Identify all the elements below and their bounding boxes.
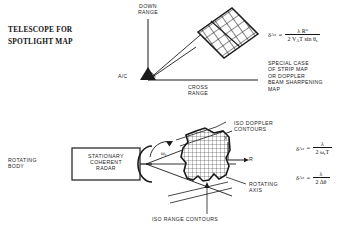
axis-x-label: X [224, 135, 228, 141]
figure-title-block: TELESCOPE FOR SPOTLIGHT MAP [8, 24, 88, 47]
formula2-fraction: λ 2 Δθ [313, 171, 330, 185]
formula-numerator: λ Ro [294, 27, 311, 34]
aircraft-label: A/C [118, 73, 128, 79]
iso-doppler-contours-label: ISO DOPPLER CONTOURS [234, 120, 302, 132]
formula-equals: = [276, 32, 284, 38]
down-range-label: DOWN RANGE [122, 3, 174, 15]
figure-canvas: TELESCOPE FOR SPOTLIGHT MAP DOWN RANGE C… [0, 0, 352, 237]
iso-range-contours-label: ISO RANGE CONTOURS [152, 216, 218, 222]
special-case-note: SPECIAL CASE OF STRIP MAP OR DOPPLER BEA… [268, 60, 352, 92]
axis-r-label: R [249, 156, 253, 162]
formula-denominator-sub2: s [316, 38, 318, 43]
isar-resolution-formula-1: δ A z = λ 2 ωrT [296, 141, 332, 156]
rotating-axis-label: ROTATING AXIS [249, 181, 293, 193]
formula-numerator-sup: o [306, 27, 308, 32]
formula1-denominator: 2 ωrT [313, 147, 333, 156]
formula-denominator: 2 VAT sin θs [285, 34, 321, 43]
formula-numerator-text: λ R [297, 28, 305, 34]
formula-denominator-rest: T sin θ [299, 36, 315, 42]
isar-resolution-formula-2: δ A z = λ 2 Δθ [296, 171, 330, 185]
rotating-body-label: ROTATING BODY [8, 157, 66, 169]
formula1-equals: = [304, 145, 312, 151]
omega-r-label: ωr [161, 150, 167, 158]
formula1-denominator-text: 2 ω [316, 149, 324, 155]
omega-subscript: r [165, 152, 167, 157]
formula2-equals: = [304, 175, 312, 181]
cross-range-label: CROSS RANGE [172, 84, 224, 96]
formula1-fraction: λ 2 ωrT [313, 141, 333, 156]
radar-box-label: STATIONARY COHERENT RADAR [74, 153, 138, 172]
formula1-denominator-rest: T [325, 149, 329, 155]
formula-fraction: λ Ro 2 VAT sin θs [285, 27, 321, 43]
formula2-denominator: 2 Δθ [313, 177, 330, 185]
spotlight-azimuth-resolution-formula: δ A z = λ Ro 2 VAT sin θs [268, 27, 320, 43]
